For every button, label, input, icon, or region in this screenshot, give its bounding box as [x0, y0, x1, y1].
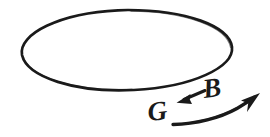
- B-to-G-arrow: [177, 91, 206, 104]
- orbit-ellipse: [22, 10, 232, 90]
- label-g: G: [146, 97, 168, 126]
- sketch-canvas: G B: [0, 0, 270, 137]
- label-b: B: [201, 74, 223, 103]
- sketch-drawing: [0, 0, 270, 137]
